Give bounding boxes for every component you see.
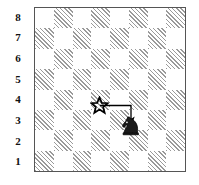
star-icon: [90, 96, 109, 115]
board-marks-layer: [35, 8, 187, 173]
arrow-icon: [35, 8, 187, 173]
chess-board: [34, 7, 186, 172]
rank-label-7: 7: [8, 28, 28, 49]
rank-label-1: 1: [8, 151, 28, 172]
chess-diagram: 8 7 6 5 4 3 2 1: [0, 0, 199, 185]
rank-label-3: 3: [8, 110, 28, 131]
rank-label-column: 8 7 6 5 4 3 2 1: [8, 7, 28, 172]
rank-label-6: 6: [8, 48, 28, 69]
rank-label-8: 8: [8, 7, 28, 28]
knight-icon: [121, 115, 140, 136]
rank-label-2: 2: [8, 131, 28, 152]
rank-label-4: 4: [8, 90, 28, 111]
rank-label-5: 5: [8, 69, 28, 90]
